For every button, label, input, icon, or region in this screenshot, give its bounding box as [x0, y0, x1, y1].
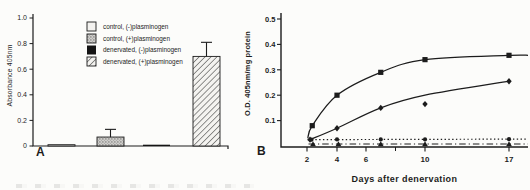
svg-text:1.0: 1.0	[17, 14, 27, 21]
bar-chart-panel-a: 00.20.40.60.81.0control, (-)plasminogenc…	[0, 0, 240, 190]
svg-text:0.2: 0.2	[265, 91, 275, 100]
svg-text:6: 6	[364, 155, 369, 164]
panel-b-y-axis-label: O.D. 405nm/mg protein	[243, 19, 252, 129]
svg-text:0.8: 0.8	[17, 40, 27, 47]
svg-text:0.5: 0.5	[265, 15, 275, 24]
panel-a-letter: A	[36, 145, 45, 159]
figure-scan: 00.20.40.60.81.0control, (-)plasminogenc…	[0, 0, 530, 190]
svg-text:4: 4	[335, 155, 340, 164]
svg-text:control, (+)plasminogen: control, (+)plasminogen	[103, 35, 170, 43]
svg-text:0: 0	[23, 142, 27, 149]
svg-text:control, (-)plasminogen: control, (-)plasminogen	[103, 23, 169, 31]
svg-text:10: 10	[421, 155, 430, 164]
cropped-caption-remnant	[16, 184, 254, 188]
svg-text:denervated, (-)plasminogen: denervated, (-)plasminogen	[103, 46, 182, 54]
panel-b-x-axis-label: Days after denervation	[281, 174, 528, 184]
svg-text:0.4: 0.4	[17, 91, 27, 98]
svg-text:0.2: 0.2	[17, 117, 27, 124]
svg-text:0.4: 0.4	[265, 40, 276, 49]
svg-text:2: 2	[305, 155, 310, 164]
svg-text:0.6: 0.6	[17, 66, 27, 73]
panel-b-letter: B	[257, 144, 266, 158]
line-chart-panel-b: 0.10.20.30.40.52461017	[240, 0, 530, 190]
svg-text:denervated, (+)plasminogen: denervated, (+)plasminogen	[103, 58, 183, 66]
svg-text:0.1: 0.1	[265, 116, 275, 125]
svg-text:0.3: 0.3	[265, 66, 275, 75]
svg-text:17: 17	[505, 155, 514, 164]
panel-a-y-axis-label: Absorbance 405nm	[6, 26, 13, 126]
